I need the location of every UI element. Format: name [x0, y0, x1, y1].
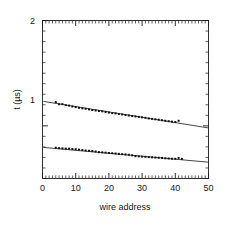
x-axis-title: wire address	[98, 202, 151, 212]
data-point	[138, 116, 140, 118]
data-point	[171, 121, 173, 123]
data-point	[85, 108, 87, 110]
data-point	[58, 147, 60, 149]
data-point	[141, 116, 143, 118]
data-point	[181, 158, 183, 160]
data-point	[105, 152, 107, 154]
data-point	[174, 121, 176, 123]
data-point	[178, 120, 180, 122]
data-point	[81, 107, 83, 109]
data-point	[154, 118, 156, 120]
data-point	[121, 153, 123, 155]
data-point	[71, 105, 73, 107]
data-point	[95, 151, 97, 153]
data-point	[68, 148, 70, 150]
data-point	[101, 151, 103, 153]
xtick-label-30: 30	[137, 183, 147, 193]
data-point	[138, 155, 140, 157]
data-point	[118, 113, 120, 115]
data-point	[65, 148, 67, 150]
data-point	[128, 115, 130, 117]
data-point	[151, 118, 153, 120]
data-point	[91, 150, 93, 152]
xtick-label-20: 20	[104, 183, 114, 193]
data-point	[105, 111, 107, 113]
data-point	[88, 150, 90, 152]
data-point	[168, 157, 170, 159]
data-point	[168, 120, 170, 122]
data-point	[125, 114, 127, 116]
data-point	[108, 152, 110, 154]
xtick-label-40: 40	[170, 183, 180, 193]
data-point	[75, 148, 77, 150]
fit-lines-group	[43, 101, 208, 162]
data-point	[174, 158, 176, 160]
data-point	[115, 153, 117, 155]
xtick-label-50: 50	[203, 183, 213, 193]
y-axis-title: t (µs)	[12, 89, 22, 110]
data-point	[81, 149, 83, 151]
xtick-label-10: 10	[71, 183, 81, 193]
data-point	[144, 156, 146, 158]
data-point	[95, 109, 97, 111]
data-point	[144, 117, 146, 119]
data-point	[164, 157, 166, 159]
data-point	[75, 106, 77, 108]
data-point	[178, 157, 180, 159]
data-point	[125, 153, 127, 155]
data-point	[148, 117, 150, 119]
data-point	[148, 156, 150, 158]
data-point	[71, 148, 73, 150]
ytick-label-1: 1	[30, 95, 35, 105]
data-point	[154, 157, 156, 159]
data-points-group	[55, 101, 183, 160]
data-point	[78, 107, 80, 109]
data-point	[161, 119, 163, 121]
data-point	[68, 105, 70, 107]
ytick-label-2: 2	[30, 16, 35, 26]
data-point	[85, 149, 87, 151]
chart-figure: 2 1 0 10 20 30 40 50 wire address t (µs)	[0, 0, 230, 227]
data-point	[98, 151, 100, 153]
xtick-label-0: 0	[40, 183, 45, 193]
data-point	[111, 112, 113, 114]
data-point	[121, 113, 123, 115]
data-point	[88, 108, 90, 110]
data-point	[91, 109, 93, 111]
data-point	[134, 155, 136, 157]
data-point	[118, 153, 120, 155]
data-point	[65, 104, 67, 106]
data-point	[115, 112, 117, 114]
data-point	[161, 157, 163, 159]
data-point	[55, 101, 57, 103]
data-point	[134, 115, 136, 117]
data-point	[131, 154, 133, 156]
scatter-plot-canvas: 2 1 0 10 20 30 40 50 wire address t (µs)	[0, 0, 230, 227]
data-point	[61, 147, 63, 149]
data-point	[111, 152, 113, 154]
data-point	[171, 158, 173, 160]
data-point	[141, 156, 143, 158]
data-point	[55, 147, 57, 149]
data-point	[131, 115, 133, 117]
data-point	[101, 110, 103, 112]
data-point	[58, 103, 60, 105]
data-point	[158, 157, 160, 159]
data-point	[61, 103, 63, 105]
data-point	[78, 149, 80, 151]
data-point	[128, 154, 130, 156]
data-point	[158, 119, 160, 121]
data-point	[108, 112, 110, 114]
data-point	[98, 110, 100, 112]
data-point	[151, 156, 153, 158]
data-point	[164, 120, 166, 122]
